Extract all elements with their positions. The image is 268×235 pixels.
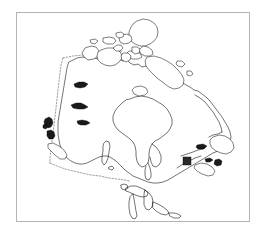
map-frame xyxy=(16,12,250,222)
location-marker[interactable] xyxy=(183,157,191,165)
figure-root xyxy=(0,0,268,235)
southern-border-49th-parallel xyxy=(50,163,130,181)
canada-map xyxy=(17,13,251,223)
great-lakes xyxy=(121,184,181,219)
